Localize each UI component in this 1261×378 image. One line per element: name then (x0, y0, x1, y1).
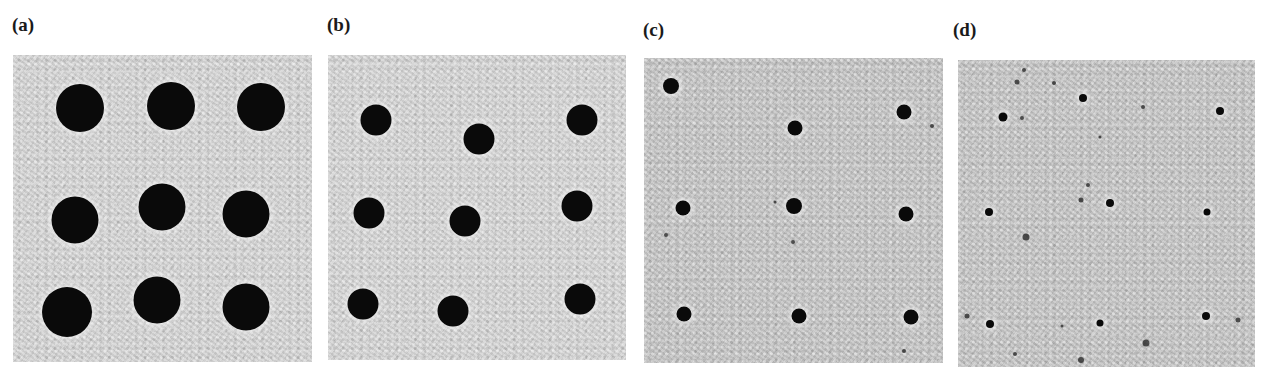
defect-speck (1052, 81, 1056, 85)
defect-speck (1061, 325, 1064, 328)
defect-speck (930, 124, 934, 128)
figure: (a)(b)(c)(d) (0, 0, 1261, 378)
defect-speck (664, 233, 668, 237)
defect-speck (1099, 136, 1102, 139)
hole-dot (1079, 94, 1087, 102)
panel-label-c: (c) (643, 20, 664, 39)
defect-speck (1086, 183, 1090, 187)
panel-image-a (13, 55, 312, 362)
panel-label-d: (d) (953, 20, 976, 39)
hole-dot (223, 191, 270, 238)
hole-dot (42, 287, 92, 337)
hole-dot (139, 184, 186, 231)
hole-dot (986, 320, 994, 328)
defect-speck (1013, 352, 1017, 356)
hole-dot (788, 121, 803, 136)
panel-label-b: (b) (327, 15, 350, 34)
hole-dot (792, 309, 807, 324)
hole-dot (438, 296, 469, 327)
hole-dot (899, 207, 914, 222)
hole-dot (1204, 209, 1211, 216)
hole-dot (904, 310, 919, 325)
hole-dot (1106, 199, 1114, 207)
defect-speck (1023, 234, 1030, 241)
hole-dot (999, 113, 1008, 122)
defect-speck (774, 201, 777, 204)
hole-dot (354, 198, 385, 229)
hole-dot (676, 201, 691, 216)
defect-speck (1078, 357, 1084, 363)
hole-dot (1202, 312, 1210, 320)
defect-speck (1020, 116, 1024, 120)
hole-dot (567, 105, 598, 136)
defect-speck (965, 314, 970, 319)
hole-dot (147, 82, 195, 130)
hole-dot (361, 105, 392, 136)
hole-dot (562, 191, 593, 222)
hole-dot (56, 84, 104, 132)
hole-dot (450, 206, 481, 237)
panel-image-d (958, 60, 1255, 367)
hole-dot (985, 208, 993, 216)
hole-dot (565, 284, 596, 315)
hole-dot (464, 124, 495, 155)
panel-image-c (644, 58, 943, 363)
defect-speck (1236, 318, 1241, 323)
hole-dot (1097, 320, 1104, 327)
panel-label-a: (a) (12, 15, 34, 34)
hole-dot (223, 284, 270, 331)
hole-dot (348, 289, 379, 320)
hole-dot (237, 83, 285, 131)
hole-dot (134, 277, 181, 324)
hole-dot (677, 307, 692, 322)
hole-dot (897, 105, 912, 120)
hole-dot (786, 198, 802, 214)
defect-speck (1143, 340, 1150, 347)
hole-dot (1216, 107, 1224, 115)
defect-speck (791, 240, 795, 244)
panel-image-b (328, 55, 626, 360)
defect-speck (1079, 198, 1084, 203)
hole-dot (663, 78, 679, 94)
defect-speck (1141, 105, 1145, 109)
defect-speck (1022, 68, 1026, 72)
hole-dot (52, 197, 99, 244)
defect-speck (1015, 80, 1020, 85)
defect-speck (902, 349, 906, 353)
